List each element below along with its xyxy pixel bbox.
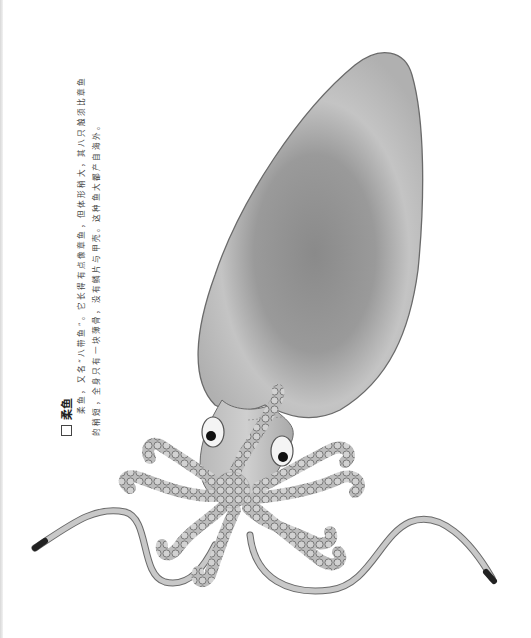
squid-illustration — [0, 0, 531, 638]
right-eye — [271, 436, 293, 466]
mantle — [198, 53, 423, 418]
left-eye — [202, 417, 224, 447]
arm-outline — [214, 472, 250, 508]
